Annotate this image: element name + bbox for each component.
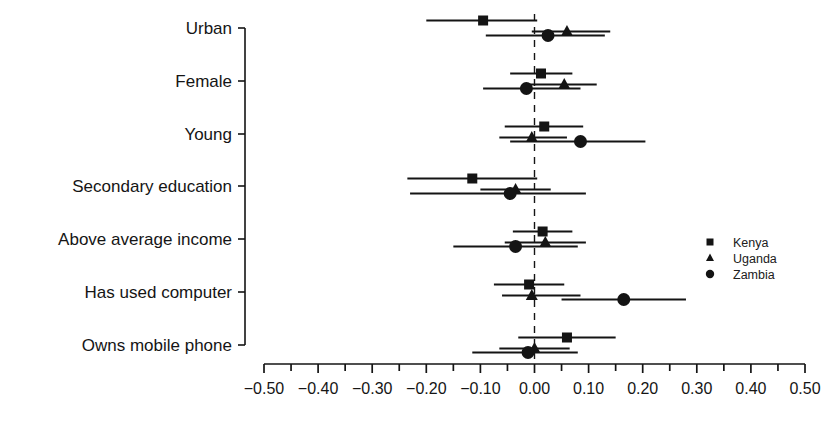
- estimate-marker-square: [467, 174, 477, 184]
- datapoint-kenya-female: [510, 69, 572, 79]
- datapoint-kenya-young: [505, 122, 583, 132]
- datapoint-uganda-owns-mobile-phone: [499, 342, 569, 353]
- legend-marker-circle: [706, 270, 714, 278]
- legend-label-kenya: Kenya: [733, 236, 768, 250]
- datapoint-uganda-has-used-computer: [502, 289, 580, 300]
- estimate-marker-square: [524, 280, 534, 290]
- datapoint-kenya-urban: [426, 16, 537, 26]
- estimate-marker-triangle: [526, 289, 538, 300]
- estimate-marker-circle: [542, 29, 555, 42]
- x-axis-tick-label: 0.30: [681, 380, 712, 397]
- datapoint-kenya-secondary-education: [407, 174, 537, 184]
- estimate-marker-square: [539, 122, 549, 132]
- datapoint-kenya-owns-mobile-phone: [518, 333, 615, 343]
- y-axis-label-urban: Urban: [186, 19, 232, 38]
- estimate-marker-triangle: [561, 25, 573, 36]
- forest-plot-figure: UrbanFemaleYoungSecondary educationAbove…: [0, 0, 833, 421]
- estimate-marker-square: [538, 227, 548, 237]
- y-axis-label-secondary-education: Secondary education: [72, 177, 232, 196]
- x-axis-tick-label: 0.40: [735, 380, 766, 397]
- y-axis-label-owns-mobile-phone: Owns mobile phone: [82, 336, 232, 355]
- legend-marker-square: [707, 239, 714, 246]
- estimate-marker-triangle: [558, 78, 570, 89]
- legend-label-uganda: Uganda: [733, 252, 777, 266]
- x-axis-tick-label: 0.10: [573, 380, 604, 397]
- y-axis-label-young: Young: [184, 125, 232, 144]
- estimate-marker-circle: [509, 240, 522, 253]
- y-axis-label-female: Female: [175, 72, 232, 91]
- x-axis-tick-label: −0.30: [352, 380, 393, 397]
- estimate-marker-circle: [504, 187, 517, 200]
- legend-label-zambia: Zambia: [733, 268, 775, 282]
- x-axis-tick-label: −0.20: [406, 380, 447, 397]
- legend-marker-triangle: [706, 254, 714, 262]
- x-axis-tick-label: 0.50: [789, 380, 820, 397]
- estimate-marker-circle: [520, 82, 533, 95]
- x-axis-tick-label: 0.20: [627, 380, 658, 397]
- x-axis-tick-label: −0.40: [298, 380, 339, 397]
- estimate-marker-triangle: [526, 131, 538, 142]
- estimate-marker-circle: [522, 346, 535, 359]
- estimate-marker-triangle: [539, 236, 551, 247]
- estimate-marker-square: [562, 333, 572, 343]
- datapoint-uganda-young: [499, 131, 567, 142]
- y-axis-label-has-used-computer: Has used computer: [85, 283, 233, 302]
- estimate-marker-circle: [617, 293, 630, 306]
- x-axis-tick-label: 0.00: [519, 380, 550, 397]
- estimate-marker-square: [478, 16, 488, 26]
- x-axis-tick-label: −0.50: [244, 380, 285, 397]
- x-axis-tick-label: −0.10: [460, 380, 501, 397]
- datapoint-kenya-has-used-computer: [494, 280, 564, 290]
- chart-canvas: UrbanFemaleYoungSecondary educationAbove…: [0, 0, 833, 421]
- estimate-marker-circle: [574, 135, 587, 148]
- y-axis-label-above-average-income: Above average income: [58, 230, 232, 249]
- datapoint-uganda-female: [529, 78, 597, 89]
- estimate-marker-square: [536, 69, 546, 79]
- datapoint-kenya-above-average-income: [513, 227, 573, 237]
